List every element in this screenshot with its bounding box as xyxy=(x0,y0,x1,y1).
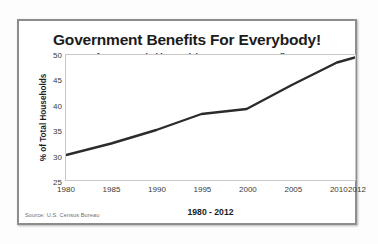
y-axis-title: % of Total Households xyxy=(39,63,48,173)
y-tick-label: 50 xyxy=(53,51,62,60)
x-tick-label: 1980 xyxy=(57,185,75,194)
y-tick-label: 30 xyxy=(53,152,62,161)
x-tick-label: 2000 xyxy=(239,185,257,194)
x-tick-label: 2012 xyxy=(348,185,366,194)
x-tick-label: 1985 xyxy=(103,185,121,194)
chart-title: Government Benefits For Everybody! xyxy=(19,31,355,49)
x-tick-label: 1990 xyxy=(148,185,166,194)
y-tick-label: 40 xyxy=(53,101,62,110)
y-tick-label: 45 xyxy=(53,76,62,85)
chart-image: Government Benefits For Everybody! % of … xyxy=(0,0,378,244)
data-line xyxy=(66,58,355,156)
chart-frame: Government Benefits For Everybody! % of … xyxy=(17,19,357,225)
x-tick-label: 2005 xyxy=(284,185,302,194)
source-note: Source: U.S. Census Bureau xyxy=(25,212,99,218)
y-tick-label: 35 xyxy=(53,127,62,136)
x-axis-title: 1980 - 2012 xyxy=(65,207,356,217)
line-series-svg xyxy=(66,55,355,180)
x-tick-label: 1995 xyxy=(194,185,212,194)
plot-area: 253035404550 198019851990199520002005201… xyxy=(65,54,356,181)
x-tick-label: 2010 xyxy=(330,185,348,194)
